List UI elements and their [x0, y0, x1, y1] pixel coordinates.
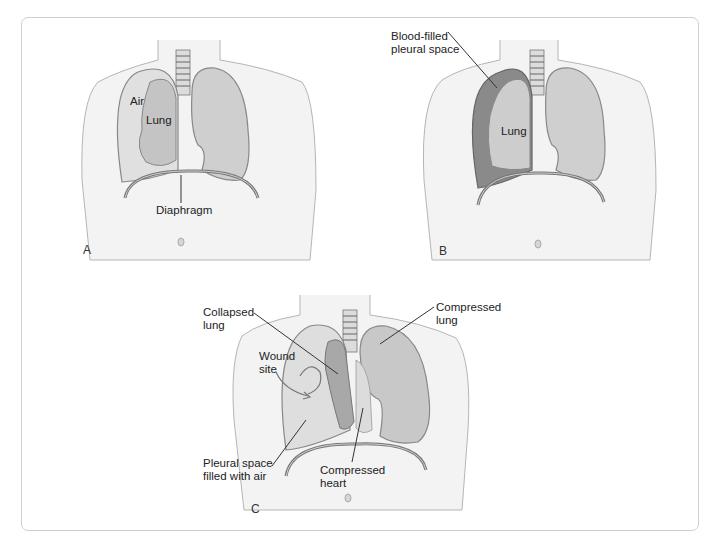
label-diaphragm: Diaphragm [156, 204, 212, 217]
trachea-icon [176, 50, 190, 95]
panel-letter-c: C [251, 502, 260, 516]
torso-a-illustration [80, 20, 340, 270]
trachea-icon [530, 50, 544, 95]
label-compressed-lung-line2: lung [436, 314, 458, 327]
label-compressed-lung-line1: Compressed [436, 301, 501, 314]
label-blood-filled-line1: Blood-filled [391, 30, 448, 43]
label-compressed-heart-line1: Compressed [320, 464, 385, 477]
panel-c: Collapsed lung Compressed lung Wound sit… [200, 280, 500, 530]
label-wound-site-line1: Wound [259, 350, 295, 363]
panel-b: Blood-filled pleural space Lung B [380, 20, 660, 270]
label-air: Air [130, 95, 144, 108]
torso-b-illustration [380, 20, 660, 270]
label-lung: Lung [501, 125, 527, 138]
label-wound-site-line2: site [259, 363, 277, 376]
panel-letter-b: B [439, 244, 447, 258]
label-collapsed-lung-line2: lung [203, 319, 225, 332]
panel-letter-a: A [83, 243, 91, 257]
label-blood-filled-line2: pleural space [391, 43, 459, 56]
label-lung: Lung [146, 114, 172, 127]
label-compressed-heart-line2: heart [320, 477, 346, 490]
label-collapsed-lung-line1: Collapsed [203, 306, 254, 319]
label-pleural-space-line2: filled with air [203, 470, 266, 483]
label-pleural-space-line1: Pleural space [203, 457, 273, 470]
panel-a: Air Lung Diaphragm A [80, 20, 340, 270]
